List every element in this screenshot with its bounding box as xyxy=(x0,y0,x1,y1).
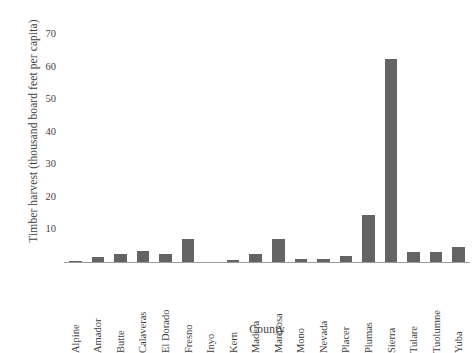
y-tick-label: 70 xyxy=(32,29,56,39)
y-tick-label: 10 xyxy=(32,224,56,234)
bar xyxy=(137,251,150,262)
bar xyxy=(362,215,375,262)
bar xyxy=(430,252,443,262)
x-axis-title: County xyxy=(64,323,470,335)
bar xyxy=(452,247,465,262)
plot-area xyxy=(64,18,470,262)
bar xyxy=(385,59,398,262)
bar xyxy=(114,254,127,262)
x-tick-label: Kern xyxy=(228,332,239,353)
bar xyxy=(407,252,420,262)
bar xyxy=(159,254,172,262)
x-tick-label: Inyo xyxy=(205,334,216,353)
y-tick-label: 60 xyxy=(32,62,56,72)
x-axis-line xyxy=(64,262,470,263)
y-tick-label: 20 xyxy=(32,192,56,202)
y-tick-label: 40 xyxy=(32,127,56,137)
bar xyxy=(272,239,285,262)
y-axis-tick-labels: 10203040506070 xyxy=(30,0,56,347)
bar xyxy=(249,254,262,262)
bar xyxy=(182,239,195,262)
y-tick-label: 30 xyxy=(32,159,56,169)
y-tick-label: 50 xyxy=(32,94,56,104)
